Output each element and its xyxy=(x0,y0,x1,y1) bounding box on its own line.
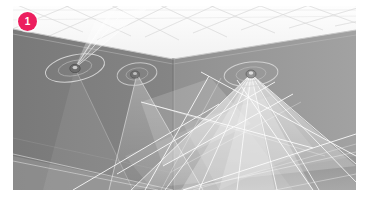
step-badge-label: 1 xyxy=(25,17,31,27)
step-badge[interactable]: 1 xyxy=(18,12,37,31)
spotlight-2-lamp-lens xyxy=(133,72,137,75)
spotlight-2-fixture[interactable] xyxy=(116,60,159,87)
light-fixtures-layer[interactable] xyxy=(13,6,356,190)
screenshot-root: 1 xyxy=(0,0,369,206)
spotlight-1-lamp-lens xyxy=(73,66,78,70)
spotlight-3-lamp-lens xyxy=(249,71,254,74)
spotlight-3-fixture[interactable] xyxy=(223,59,279,89)
spotlight-1-fixture[interactable] xyxy=(43,49,107,87)
3d-scene-viewport[interactable] xyxy=(13,6,356,190)
